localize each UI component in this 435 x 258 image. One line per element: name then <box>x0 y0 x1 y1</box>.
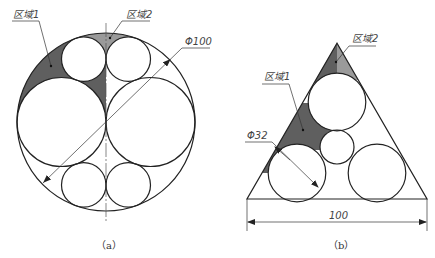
diameter-label-b: Φ32 <box>247 130 268 141</box>
diameter-label-a: Φ100 <box>185 36 212 47</box>
region-1-label-b: 区域1 <box>264 71 290 82</box>
region-2-label-a: 区域2 <box>126 9 152 20</box>
region-2-label-b: 区域2 <box>352 33 378 44</box>
figure-b: 100 Φ32 区域1 区域2 （b） <box>245 33 427 251</box>
caption-a: （a） <box>96 240 122 251</box>
diagram-canvas: Φ100 区域1 区域2 （a） <box>0 0 435 258</box>
figure-a: Φ100 区域1 区域2 （a） <box>12 9 212 251</box>
caption-b: （b） <box>328 240 354 251</box>
region-shades-b <box>247 40 427 202</box>
width-label-b: 100 <box>329 210 348 221</box>
small-circle-bottom-left <box>62 163 107 208</box>
small-circle-bottom-right <box>106 163 151 208</box>
region-1-label-a: 区域1 <box>13 9 39 20</box>
